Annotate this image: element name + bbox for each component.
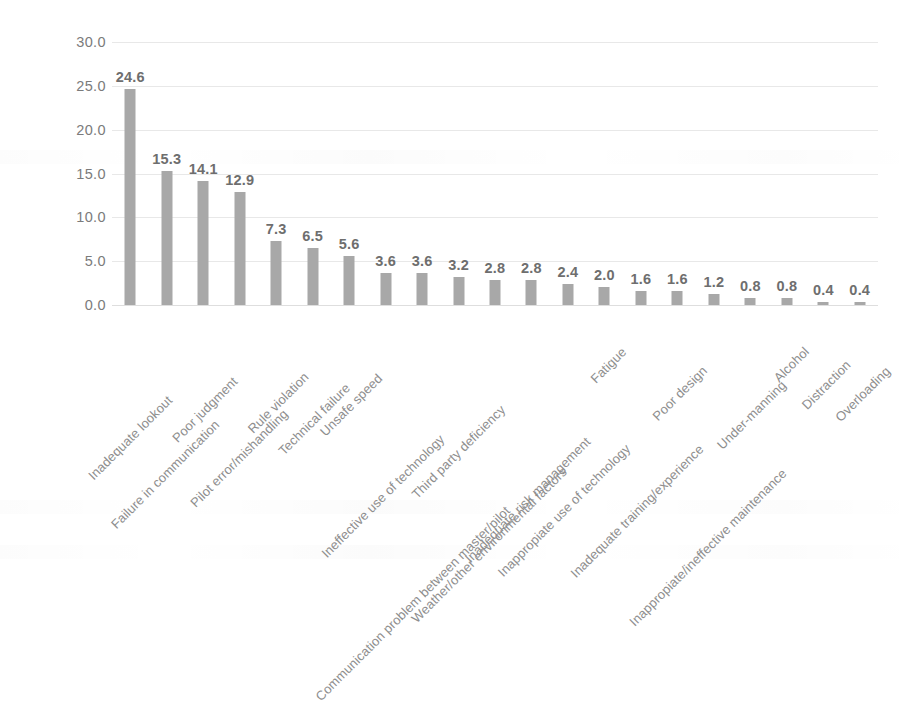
bar (380, 273, 391, 305)
bar-slot: 0.8 (769, 42, 805, 305)
bar-value-label: 2.8 (485, 260, 506, 276)
bar-slot: 0.8 (732, 42, 768, 305)
bar-slot: 3.2 (440, 42, 476, 305)
x-axis-category-label: Ineffective use of technology (436, 313, 565, 442)
bar-value-label: 1.6 (631, 271, 652, 287)
bar (635, 291, 646, 305)
bar (745, 298, 756, 305)
bar (854, 302, 865, 306)
bar-value-label: 2.4 (558, 264, 579, 280)
bar-value-label: 12.9 (225, 172, 254, 188)
bar-value-label: 3.6 (412, 253, 433, 269)
bar-slot: 7.3 (258, 42, 294, 305)
bar-value-label: 0.4 (849, 282, 870, 298)
bar-value-label: 3.6 (375, 253, 396, 269)
bar-slot: 5.6 (331, 42, 367, 305)
bar-value-label: 1.2 (703, 274, 724, 290)
bar-slot: 2.8 (513, 42, 549, 305)
bar-value-label: 2.0 (594, 267, 615, 283)
bar (307, 248, 318, 305)
bar (417, 273, 428, 305)
bar-value-label: 24.6 (116, 69, 145, 85)
bar-slot: 0.4 (805, 42, 841, 305)
bar-slot: 15.3 (148, 42, 184, 305)
bar-slot: 24.6 (112, 42, 148, 305)
x-axis-category-labels: Inadequate lookoutFailure in communicati… (112, 309, 878, 519)
y-axis-tick-label: 25.0 (76, 78, 106, 94)
bar-slot: 6.5 (294, 42, 330, 305)
bar (781, 298, 792, 305)
y-axis-tick-label: 30.0 (76, 34, 106, 50)
bar-slot: 2.4 (550, 42, 586, 305)
bar (161, 171, 172, 305)
bar-slot: 1.6 (659, 42, 695, 305)
bar-value-label: 3.2 (448, 257, 469, 273)
x-axis-category-label: Fatigue (619, 313, 661, 355)
y-axis-tick-labels: 30.025.020.015.010.05.00.0 (40, 42, 106, 305)
y-axis-tick-label: 0.0 (85, 297, 106, 313)
bar-value-label: 2.8 (521, 260, 542, 276)
bar-slot: 2.0 (586, 42, 622, 305)
bar-value-label: 14.1 (189, 161, 218, 177)
bar-value-label: 7.3 (266, 221, 287, 237)
bar-slot: 12.9 (221, 42, 257, 305)
bar-value-label: 0.4 (813, 282, 834, 298)
bar-slot: 14.1 (185, 42, 221, 305)
bar (708, 294, 719, 305)
bar (271, 241, 282, 305)
bar-slot: 3.6 (404, 42, 440, 305)
y-axis-tick-label: 15.0 (76, 166, 106, 182)
bar (818, 302, 829, 306)
gridline (112, 305, 878, 306)
bar (562, 284, 573, 305)
bar-value-label: 6.5 (302, 228, 323, 244)
bar-slot: 2.8 (477, 42, 513, 305)
bar-slot: 1.6 (623, 42, 659, 305)
bar (125, 89, 136, 305)
bar-slot: 0.4 (842, 42, 878, 305)
x-axis-category-label-text: Fatigue (588, 344, 630, 386)
bar (198, 181, 209, 305)
bar (672, 291, 683, 305)
bar (526, 280, 537, 305)
bar (234, 192, 245, 305)
bar-value-label: 0.8 (740, 278, 761, 294)
y-axis-tick-label: 20.0 (76, 122, 106, 138)
bar-series: 24.615.314.112.97.36.55.63.63.63.22.82.8… (112, 42, 878, 305)
bar (344, 256, 355, 305)
bar-value-label: 5.6 (339, 236, 360, 252)
bar (453, 277, 464, 305)
bar (599, 287, 610, 305)
bar-value-label: 15.3 (152, 151, 181, 167)
x-axis-category-label-text: Ineffective use of technology (318, 432, 447, 561)
bar-slot: 3.6 (367, 42, 403, 305)
y-axis-tick-label: 10.0 (76, 209, 106, 225)
y-axis-tick-label: 5.0 (85, 253, 106, 269)
bar-slot: 1.2 (696, 42, 732, 305)
bar-value-label: 0.8 (776, 278, 797, 294)
bar (489, 280, 500, 305)
bar-value-label: 1.6 (667, 271, 688, 287)
